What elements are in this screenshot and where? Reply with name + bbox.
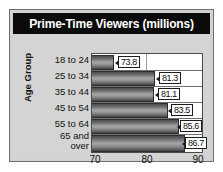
x-axis-tick-labels: 70 80 90 [91, 154, 203, 168]
bar-45-to-54 [92, 103, 168, 118]
data-label-65-and-over: 86.7 [185, 137, 207, 149]
plot-area: 73.8 81.3 81.1 83.5 85.6 86.7 [91, 53, 203, 153]
y-axis-tick-label: 55 to 64 [31, 119, 89, 129]
chart-figure: Prime-Time Viewers (millions) Age Group … [9, 9, 214, 162]
y-axis-tick-label: 18 to 24 [31, 55, 89, 65]
bar-25-to-34 [92, 71, 155, 86]
data-label-35-to-44: 81.1 [158, 88, 180, 100]
bar-65-and-over [92, 135, 185, 152]
x-axis-tick-label-80: 80 [141, 154, 152, 165]
chart-title: Prime-Time Viewers (millions) [29, 17, 194, 31]
data-label-18-to-24: 73.8 [118, 56, 140, 68]
data-label-25-to-34: 81.3 [159, 72, 181, 84]
x-axis-tick-label-70: 70 [89, 154, 100, 165]
y-axis-tick-label: 25 to 34 [31, 71, 89, 81]
data-label-45-to-54: 83.5 [171, 104, 193, 116]
y-axis-tick-label: 45 to 54 [31, 103, 89, 113]
y-axis-tick-label: 35 to 44 [31, 87, 89, 97]
y-axis-tick-labels: 18 to 24 25 to 34 35 to 44 45 to 54 55 t… [31, 53, 89, 153]
chart-title-bar: Prime-Time Viewers (millions) [13, 13, 210, 34]
x-axis-tick-label-90: 90 [192, 154, 203, 165]
y-axis-tick-label-line2: over [31, 141, 89, 151]
bar-35-to-44 [92, 87, 154, 102]
bar-18-to-24 [92, 55, 114, 70]
y-axis-tick-label: 65 and over [31, 131, 89, 150]
chart-plot-body: Age Group 18 to 24 25 to 34 35 to 44 45 … [13, 36, 210, 158]
bar-55-to-64 [92, 119, 179, 134]
data-label-55-to-64: 85.6 [180, 120, 202, 132]
